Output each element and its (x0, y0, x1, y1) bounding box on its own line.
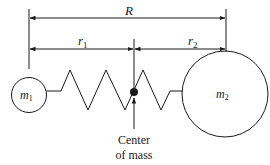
spring (47, 70, 183, 110)
center-of-mass-dot (130, 88, 138, 96)
center-of-mass-label-line2: of mass (116, 148, 153, 162)
m2-label: m2 (216, 87, 229, 102)
center-of-mass-label-line1: Center (118, 133, 150, 147)
R-label: R (124, 3, 133, 18)
r2-label: r2 (188, 33, 198, 50)
two-body-spring-diagram: R r1 r2 m1 m2 Center of mass (0, 0, 270, 165)
m1-label: m1 (20, 88, 33, 103)
r1-label: r1 (78, 33, 88, 50)
